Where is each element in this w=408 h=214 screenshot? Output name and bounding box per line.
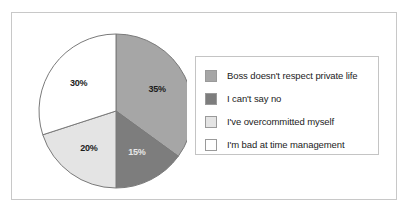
pie-label-35-percent: 35%	[148, 84, 166, 94]
pie-chart: 35% 15% 20% 30%	[27, 19, 187, 194]
pie-label-30-percent: 30%	[70, 78, 88, 88]
legend-swatch-icon	[205, 70, 217, 82]
legend-item-label: I'm bad at time management	[227, 139, 345, 150]
legend-item-ive-overcommitted-myself[interactable]: I've overcommitted myself	[205, 111, 378, 132]
legend-item-i-cant-say-no[interactable]: I can't say no	[205, 88, 378, 109]
pie-label-20-percent: 20%	[80, 143, 98, 153]
legend-swatch-icon	[205, 139, 217, 151]
legend-item-label: I've overcommitted myself	[227, 116, 334, 127]
legend: Boss doesn't respect private life I can'…	[195, 56, 379, 155]
pie-slices	[39, 34, 187, 188]
legend-item-label: Boss doesn't respect private life	[227, 70, 358, 81]
pie-chart-svg: 35% 15% 20% 30%	[27, 19, 187, 194]
legend-swatch-icon	[205, 116, 217, 128]
legend-item-im-bad-at-time-management[interactable]: I'm bad at time management	[205, 134, 378, 155]
legend-swatch-icon	[205, 93, 217, 105]
chart-frame: 35% 15% 20% 30% Boss doesn't respect pri…	[11, 12, 397, 200]
legend-item-boss-doesnt-respect-private-life[interactable]: Boss doesn't respect private life	[205, 65, 378, 86]
pie-label-15-percent: 15%	[128, 147, 146, 157]
legend-item-label: I can't say no	[227, 93, 281, 104]
